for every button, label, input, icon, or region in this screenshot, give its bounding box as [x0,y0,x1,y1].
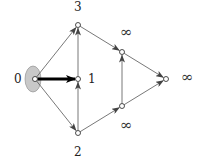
edge-n3-n4 [80,26,119,50]
edge-n5-n6 [124,81,163,105]
node-label-n0: 0 [14,72,22,86]
graph-diagram: 0123∞∞∞ [0,0,206,161]
node-n3 [76,23,81,28]
node-n2 [76,131,81,136]
node-label-n5: ∞ [120,116,133,134]
edge-n0-n2 [37,81,77,131]
node-n6 [164,77,169,82]
node-label-n2: 2 [74,145,82,159]
edges [37,26,164,131]
node-n1 [76,77,81,82]
node-n5 [120,104,125,109]
edge-n0-n3 [37,27,77,77]
node-label-n6: ∞ [181,68,194,86]
node-label-n3: 3 [74,0,82,14]
node-n0 [33,77,38,82]
node-label-n4: ∞ [120,23,133,41]
edge-n4-n6 [124,53,163,77]
edge-n2-n5 [80,108,119,132]
node-label-n1: 1 [88,72,96,86]
node-n4 [120,50,125,55]
